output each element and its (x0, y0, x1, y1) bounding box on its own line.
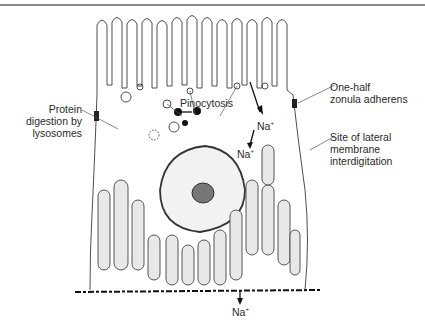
label-protein-digestion: Protein digestion by lysosomes (10, 103, 82, 139)
left-cell-wall (90, 95, 97, 290)
label-na-basal: Na+ (232, 306, 249, 318)
basal-membrane (75, 290, 320, 292)
zonula-line1: One-half (330, 81, 408, 93)
protein-line1: Protein (10, 103, 82, 115)
lateral-line1: Site of lateral (330, 131, 392, 143)
na-basal-sup: + (245, 306, 249, 312)
protein-line2: digestion by (10, 115, 82, 127)
lateral-line2: membrane (330, 143, 392, 155)
na-middle-text: Na (237, 148, 250, 160)
label-na-apical: Na+ (257, 120, 274, 132)
na-middle-sup: + (250, 148, 254, 154)
protein-line3: lysosomes (10, 127, 82, 139)
label-zonula-adherens: One-half zonula adherens (330, 81, 408, 105)
label-lateral-interdigitation: Site of lateral membrane interdigitation (330, 131, 392, 167)
zonula-adherens-left (94, 111, 99, 121)
na-apical-text: Na (257, 120, 270, 132)
label-pinocytosis: Pinocytosis (180, 97, 233, 109)
lateral-line3: interdigitation (330, 155, 392, 167)
label-na-middle: Na+ (237, 148, 254, 160)
na-apical-sup: + (270, 120, 274, 126)
zonula-line2: zonula adherens (330, 93, 408, 105)
nucleolus (192, 183, 214, 203)
zonula-adherens-right (292, 99, 297, 108)
na-basal-text: Na (232, 306, 245, 318)
